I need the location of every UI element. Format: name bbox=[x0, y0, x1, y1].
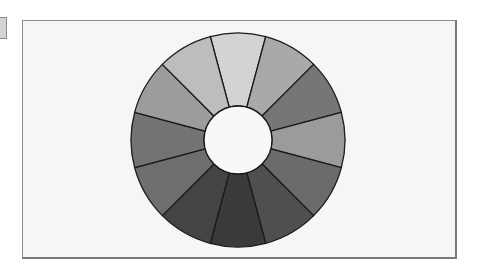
color-wheel bbox=[0, 0, 478, 276]
figure-stage bbox=[0, 0, 478, 276]
wheel-center-hole bbox=[204, 106, 272, 174]
